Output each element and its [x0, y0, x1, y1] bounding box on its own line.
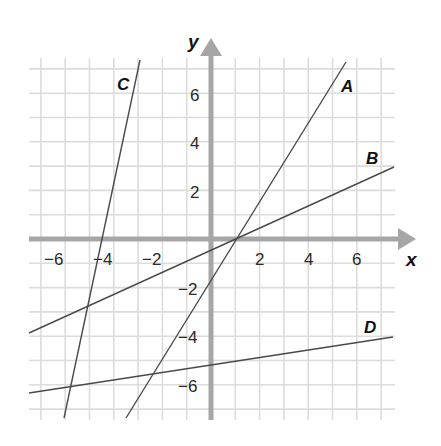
y-axis-label: y	[187, 31, 200, 52]
y-axis	[200, 38, 222, 420]
coordinate-plane: y x A B C D −6 −4 −2 2 4 6 6 4 2 −2 −4 −…	[0, 0, 441, 446]
line-a-label: A	[340, 77, 353, 96]
y-tick-label: 2	[190, 183, 199, 202]
y-tick-label: 6	[190, 86, 199, 105]
line-b-label: B	[366, 149, 378, 168]
x-axis-arrow-icon	[398, 228, 416, 250]
y-tick-label: −2	[178, 280, 197, 299]
x-axis	[29, 228, 416, 250]
y-tick-label: −6	[178, 377, 197, 396]
y-axis-arrow-icon	[200, 38, 222, 56]
x-tick-label: 6	[352, 250, 361, 269]
y-tick-label: 4	[190, 134, 199, 153]
x-tick-label: −2	[142, 250, 161, 269]
x-tick-label: −6	[44, 250, 63, 269]
x-axis-label: x	[405, 249, 418, 270]
x-tick-label: 4	[304, 250, 313, 269]
line-c-label: C	[117, 75, 130, 94]
line-d-label: D	[364, 318, 376, 337]
y-tick-label: −4	[178, 328, 197, 347]
x-tick-label: 2	[255, 250, 264, 269]
x-tick-label: −4	[93, 250, 112, 269]
